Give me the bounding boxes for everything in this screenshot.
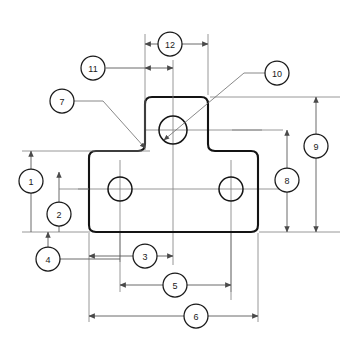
balloon-4-label: 4	[45, 255, 50, 265]
leader-7-diagonal	[103, 101, 145, 148]
balloon-3[interactable]: 3	[133, 244, 157, 268]
balloon-8[interactable]: 8	[275, 168, 299, 192]
balloon-6-label: 6	[193, 312, 198, 322]
balloon-5[interactable]: 5	[163, 273, 187, 297]
balloon-11-label: 11	[88, 64, 97, 74]
balloon-3-label: 3	[142, 252, 147, 262]
part-drawing-svg: 1 2 3 4 5 6 7 8	[0, 0, 344, 350]
balloon-2-label: 2	[56, 210, 61, 220]
balloon-11[interactable]: 11	[81, 56, 105, 80]
balloon-8-label: 8	[284, 176, 289, 186]
leader-lines	[74, 73, 265, 148]
balloon-9[interactable]: 9	[304, 134, 328, 158]
balloon-7[interactable]: 7	[50, 89, 74, 113]
balloon-4[interactable]: 4	[36, 247, 60, 271]
balloon-2[interactable]: 2	[47, 202, 71, 226]
balloon-6[interactable]: 6	[184, 304, 208, 328]
part-outline	[89, 97, 258, 232]
balloon-12[interactable]: 12	[158, 32, 182, 56]
balloon-10-label: 10	[272, 69, 282, 79]
balloon-1-label: 1	[28, 177, 33, 187]
balloon-7-label: 7	[59, 97, 64, 107]
balloon-9-label: 9	[313, 142, 318, 152]
balloon-10[interactable]: 10	[265, 61, 289, 85]
technical-drawing-canvas: 1 2 3 4 5 6 7 8	[0, 0, 344, 350]
balloon-5-label: 5	[172, 281, 177, 291]
balloon-1[interactable]: 1	[19, 169, 43, 193]
balloon-12-label: 12	[165, 40, 175, 50]
